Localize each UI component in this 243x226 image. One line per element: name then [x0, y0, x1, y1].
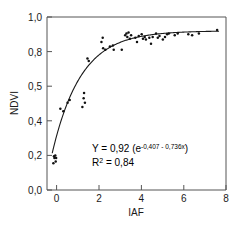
data-point: [86, 57, 89, 60]
data-point: [54, 160, 57, 163]
data-point: [126, 36, 129, 39]
data-point: [155, 32, 158, 35]
data-point: [145, 38, 148, 41]
x-tick-label: 8: [223, 193, 229, 204]
data-point: [140, 33, 143, 36]
data-point: [112, 49, 115, 52]
data-point: [87, 60, 90, 63]
data-point: [100, 41, 103, 44]
data-point: [66, 101, 69, 104]
equation-prefix: Y = 0,92 (e: [92, 143, 141, 154]
data-point: [112, 44, 115, 47]
data-point: [158, 35, 161, 38]
data-point: [59, 107, 62, 110]
data-point: [62, 110, 64, 113]
data-point: [101, 37, 104, 40]
data-point: [136, 41, 139, 44]
y-tick-label: 0,5: [28, 81, 42, 92]
data-point: [198, 32, 201, 35]
data-point: [173, 34, 176, 37]
y-tick-label: 0,2: [28, 150, 42, 161]
data-point: [121, 49, 124, 52]
r-squared-value: = 0,84: [103, 157, 134, 168]
y-tick-label: 0,8: [28, 47, 42, 58]
data-point: [109, 45, 112, 48]
data-point: [216, 29, 219, 32]
y-tick-label: 0,4: [28, 116, 42, 127]
data-point: [55, 157, 58, 160]
chart-figure: 1,0 0,8 0,5 0,4 0,2 0,0 0 2 4 6 8 IAF ND…: [0, 0, 243, 226]
data-point: [151, 36, 154, 39]
ndvi-iaf-scatter-chart: 1,0 0,8 0,5 0,4 0,2 0,0 0 2 4 6 8 IAF ND…: [0, 0, 243, 226]
data-point: [162, 38, 165, 41]
data-point: [129, 37, 132, 40]
data-point: [68, 99, 71, 102]
x-tick-label: 2: [96, 193, 102, 204]
x-tick-label: 0: [54, 193, 60, 204]
x-axis-title: IAF: [128, 207, 144, 218]
data-point: [191, 34, 194, 37]
data-point: [104, 49, 107, 52]
data-point: [53, 155, 56, 158]
data-point: [84, 101, 87, 104]
data-point: [150, 43, 153, 46]
data-point: [81, 106, 84, 109]
data-point: [134, 37, 137, 40]
r-squared-label: R: [92, 157, 99, 168]
data-point: [130, 34, 133, 37]
r-squared-line: R2 = 0,84: [92, 157, 134, 168]
data-point: [176, 32, 179, 35]
data-point: [82, 97, 85, 100]
y-axis-title: NDVI: [9, 91, 20, 115]
y-tick-label: 1,0: [28, 12, 42, 23]
data-point: [127, 31, 130, 34]
data-point: [187, 33, 190, 36]
data-point: [164, 36, 167, 39]
data-point: [143, 36, 146, 39]
data-point: [52, 162, 55, 165]
equation-suffix: ): [185, 143, 188, 154]
data-point: [83, 92, 86, 95]
data-point: [168, 32, 171, 35]
equation-exponent: -0,407 - 0,736x: [141, 143, 185, 150]
data-point: [137, 35, 140, 38]
y-tick-label: 0,0: [28, 185, 42, 196]
x-tick-label: 4: [139, 193, 145, 204]
data-point: [102, 47, 105, 50]
data-point: [148, 37, 151, 40]
x-tick-label: 6: [181, 193, 187, 204]
